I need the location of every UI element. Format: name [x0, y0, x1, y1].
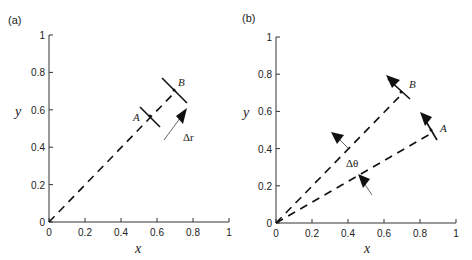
x-tick-label: 0.8 — [186, 227, 200, 238]
delta-theta-label: Δθ — [346, 157, 358, 169]
y-tick-label: 0.6 — [31, 105, 45, 116]
y-tick-label: 0.6 — [258, 106, 272, 117]
arrowhead-icon — [358, 174, 370, 188]
x-tick-label: 0.4 — [114, 227, 128, 238]
y-tick-label: 0.8 — [258, 69, 272, 80]
x-tick-label: 0.6 — [377, 228, 391, 239]
x-tick-label: 0.8 — [413, 228, 427, 239]
x-ticks — [49, 218, 229, 222]
point-b — [173, 89, 176, 92]
panel-b-label: (b) — [242, 12, 255, 24]
x-tick-label: 0.4 — [341, 228, 355, 239]
delta-r-label: Δr — [183, 131, 194, 143]
panel-a: (a) 0 0.2 0.4 0.6 0.8 1 — [8, 14, 232, 256]
y-tick-label: 1 — [39, 30, 45, 41]
x-tick-label: 0.6 — [150, 227, 164, 238]
y-axis-label: y — [13, 104, 22, 119]
point-a — [430, 129, 433, 132]
x-tick-label: 0 — [46, 227, 52, 238]
x-axis-label: x — [363, 241, 371, 256]
arrowhead-icon — [420, 112, 432, 126]
radial-line — [49, 91, 176, 222]
point-a-label: A — [439, 122, 447, 134]
y-tick-label: 0.8 — [31, 67, 45, 78]
x-ticks — [276, 219, 456, 223]
panel-a-label: (a) — [8, 14, 21, 26]
x-axis-label: x — [134, 241, 142, 256]
x-tick-label: 0.2 — [305, 228, 319, 239]
point-b-label: B — [178, 76, 185, 88]
point-b — [400, 91, 403, 94]
x-tick-label: 0 — [273, 228, 279, 239]
y-tick-label: 0.4 — [31, 142, 45, 153]
y-tick-label: 0 — [266, 218, 272, 229]
y-tick-label: 1 — [266, 32, 272, 43]
arrowhead-icon — [386, 75, 400, 88]
x-tick-label: 0.2 — [78, 227, 92, 238]
radial-line-a — [276, 133, 432, 223]
y-ticks — [276, 37, 280, 223]
point-a-label: A — [132, 111, 140, 123]
y-tick-label: 0.2 — [31, 180, 45, 191]
panel-b: (b) 0 0.2 0.4 0.6 0.8 1 0 — [241, 12, 459, 256]
y-ticks — [49, 35, 53, 222]
y-tick-label: 0.4 — [258, 144, 272, 155]
y-tick-label: 0.2 — [258, 181, 272, 192]
point-b-label: B — [409, 78, 416, 90]
x-tick-label: 1 — [226, 227, 232, 238]
y-axis-label: y — [241, 105, 250, 120]
x-tick-label: 1 — [453, 228, 459, 239]
point-a — [149, 115, 152, 118]
radial-line-b — [276, 96, 400, 223]
y-tick-label: 0 — [39, 217, 45, 228]
figure: (a) 0 0.2 0.4 0.6 0.8 1 — [0, 0, 472, 260]
